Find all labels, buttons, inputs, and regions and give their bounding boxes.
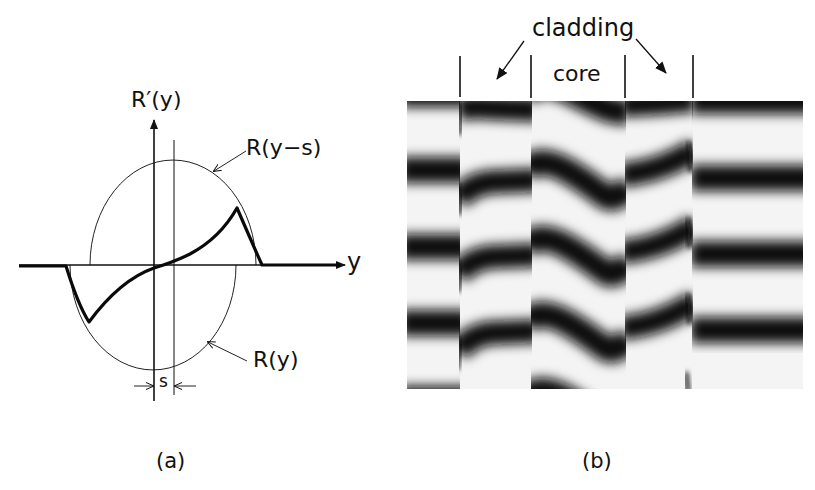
original-curve-label: R(y) <box>253 349 298 371</box>
panel-a-caption: (a) <box>156 451 185 472</box>
cladding-label: cladding <box>532 16 634 40</box>
cladding-arrow-left <box>497 41 524 79</box>
panel-b-interferogram <box>0 0 815 490</box>
fringe-photo <box>400 84 815 425</box>
horizontal-axis-label: y <box>347 250 361 274</box>
vertical-axis-label: R′(y) <box>131 89 181 111</box>
shifted-curve-label: R(y−s) <box>246 137 321 159</box>
core-label: core <box>553 63 601 85</box>
shift-label: s <box>159 373 168 390</box>
panel-b-caption: (b) <box>582 451 612 472</box>
cladding-arrow-right <box>636 39 666 73</box>
